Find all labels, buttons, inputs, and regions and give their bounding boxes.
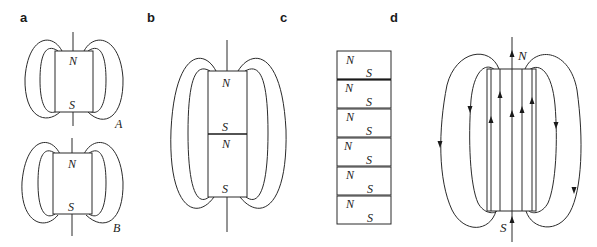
arrow-down-icon [468,106,473,113]
magnet-diagram-canvas: N S A N S B N S N S [0,0,597,247]
magnet-b: N S B [22,138,123,236]
arrow-up-icon [510,216,515,223]
arrow-down-icon [572,187,577,194]
pole-north: N [221,137,231,151]
pole-north: N [221,76,231,90]
panel-b: N S N S [171,40,286,232]
pole-south: S [367,182,373,196]
magnet-tag: A [114,117,123,131]
arrow-down-icon [438,141,443,148]
pole-south: S [366,66,372,80]
pole-south: S [366,153,372,167]
pole-north: N [345,197,355,211]
magnet-a: N S A [25,32,123,131]
pole-south: S [366,95,372,109]
field-loop-inner-right [245,69,268,200]
pole-south: S [500,220,507,235]
pole-north: N [517,48,528,63]
pole-north: N [67,157,77,171]
arrow-up-icon [510,50,515,57]
arrow-down-icon [554,122,559,129]
pole-south: S [222,120,228,134]
pole-north: N [345,110,355,124]
pole-south: S [69,98,75,112]
pole-south: S [222,182,228,196]
pole-north: N [345,168,355,182]
field-loop-inner-left [188,69,210,200]
panel-d: N S [438,37,582,242]
panel-c: N S N S N S N S N S N S [337,51,391,225]
pole-south: S [68,200,74,214]
panel-a: N S A N S B [22,32,123,236]
magnet-tag: B [113,221,121,235]
pole-north: N [343,139,353,153]
pole-north: N [345,53,355,67]
pole-south: S [366,124,372,138]
pole-south: S [367,211,373,225]
pole-north: N [344,81,354,95]
pole-north: N [68,54,78,68]
